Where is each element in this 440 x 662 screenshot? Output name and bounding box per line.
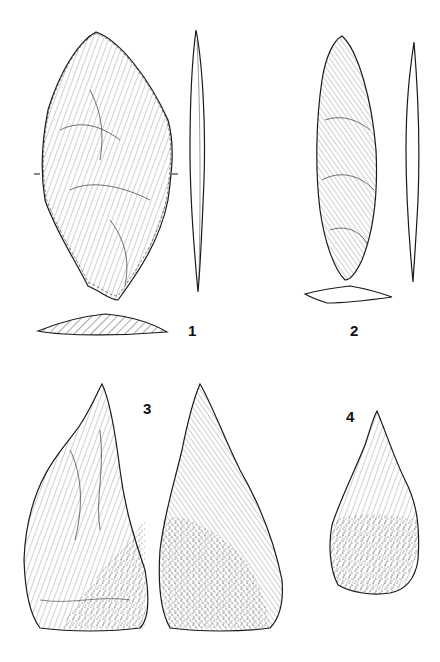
figure-1-face: [34, 32, 178, 300]
figure-1-cross-section: [38, 314, 167, 335]
figure-4-face: [330, 411, 419, 594]
figure-2-face: [317, 36, 377, 280]
figure-label-4: 4: [346, 408, 354, 425]
figure-3-back-face: [159, 384, 282, 631]
figure-label-3: 3: [143, 400, 151, 417]
figure-2-cross-section: [305, 286, 392, 303]
figure-label-1: 1: [188, 322, 196, 339]
figure-label-2: 2: [350, 322, 358, 339]
figure-1-profile: [190, 30, 205, 292]
figure-3-front-face: [24, 384, 148, 631]
figure-2-profile: [406, 42, 419, 282]
